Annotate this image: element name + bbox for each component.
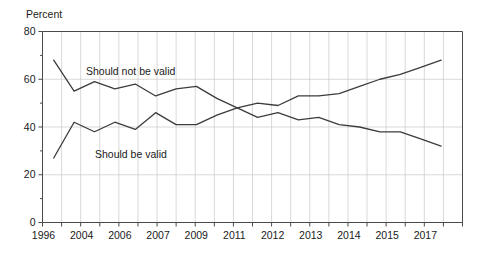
x-tick-label: 2017 bbox=[414, 229, 438, 241]
x-tick-label: 2004 bbox=[70, 229, 94, 241]
y-axis-title: Percent bbox=[26, 8, 62, 20]
x-tick-label: 2012 bbox=[261, 229, 285, 241]
y-tick-label: 0 bbox=[30, 216, 36, 228]
x-axis-tick-labels: 1996200420062007200920112012201320142015… bbox=[32, 229, 437, 241]
x-tick-label: 2014 bbox=[337, 229, 361, 241]
x-tick-label: 2006 bbox=[108, 229, 132, 241]
y-tick-label: 60 bbox=[24, 73, 36, 85]
y-tick-label: 20 bbox=[24, 168, 36, 180]
x-tick-label: 2011 bbox=[223, 229, 246, 241]
y-tick-label: 80 bbox=[24, 25, 36, 37]
x-tick-label: 2015 bbox=[375, 229, 399, 241]
x-tick-label: 2013 bbox=[299, 229, 323, 241]
series-label-should-not-be-valid: Should not be valid bbox=[86, 65, 175, 77]
line-chart: 020406080 199620042006200720092011201220… bbox=[0, 0, 492, 265]
x-tick-label: 2007 bbox=[146, 229, 170, 241]
chart-container: 020406080 199620042006200720092011201220… bbox=[0, 0, 492, 265]
chart-background bbox=[0, 0, 492, 265]
series-label-should-be-valid: Should be valid bbox=[95, 148, 167, 160]
x-tick-label: 1996 bbox=[32, 229, 56, 241]
y-tick-label: 40 bbox=[24, 121, 36, 133]
x-tick-label: 2009 bbox=[185, 229, 209, 241]
